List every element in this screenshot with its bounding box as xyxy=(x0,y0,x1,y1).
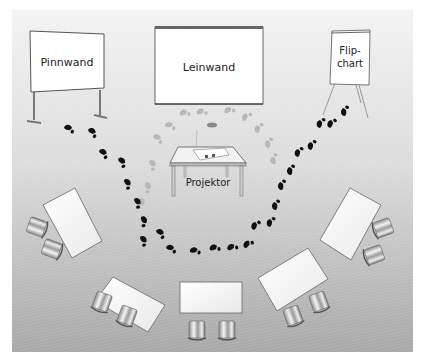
leinwand: Leinwand xyxy=(155,26,263,104)
pinnwand-label: Pinnwand xyxy=(40,56,93,69)
leinwand-label: Leinwand xyxy=(183,61,235,74)
projector-label: Projektor xyxy=(186,177,232,188)
flipchart-label-line2: chart xyxy=(337,58,363,69)
flipchart-label-line1: Flip- xyxy=(339,45,361,56)
seminar-room-diagram: Pinnwand Leinwand Flip- chart Projektor xyxy=(0,0,421,362)
